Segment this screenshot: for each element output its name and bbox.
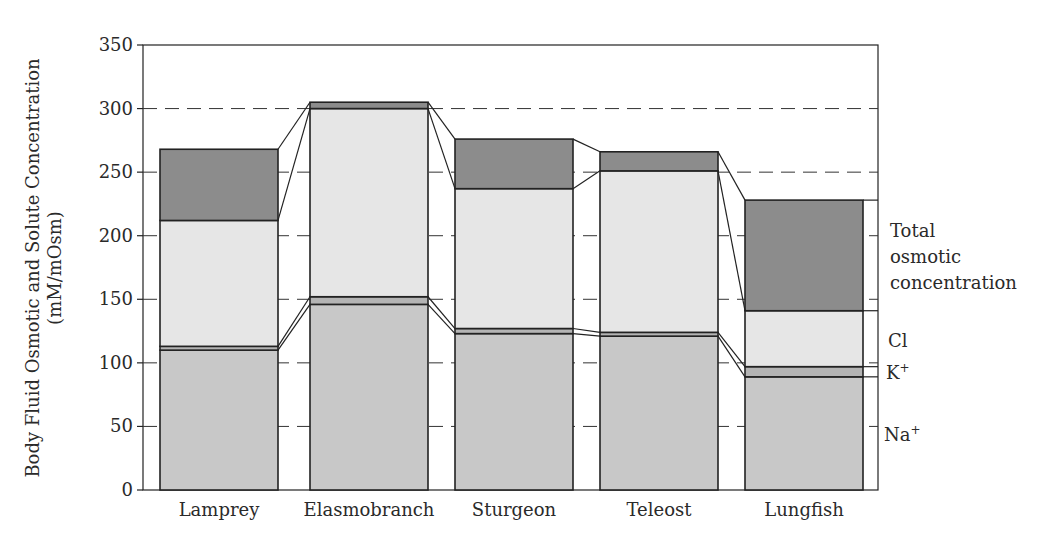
bar-segment-cl (455, 189, 573, 329)
legend-na: Na+ (884, 424, 921, 446)
y-axis-title: Body Fluid Osmotic and Solute Concentrat… (14, 45, 74, 490)
x-category-label: Elasmobranch (304, 499, 435, 520)
bar-segment-total (600, 152, 718, 171)
bar-segment-k (310, 297, 428, 305)
y-tick-label: 300 (99, 98, 133, 119)
y-tick-label: 200 (99, 225, 133, 246)
bar-segment-total (310, 102, 428, 108)
connector-line (278, 304, 310, 350)
bar-segment-cl (310, 109, 428, 297)
legend-total-line2: osmotic (890, 246, 961, 268)
y-axis-title-units: (mM/mOsm) (44, 58, 66, 477)
connector-line (428, 297, 455, 329)
connector-line (718, 332, 745, 366)
bar-segment-total (160, 149, 278, 220)
y-tick-label: 250 (99, 161, 133, 182)
bar-segment-cl (745, 311, 863, 367)
bar-segment-cl (160, 220, 278, 346)
bar-segment-total (455, 139, 573, 189)
bar-segment-na (310, 304, 428, 490)
legend-total-line1: Total (890, 220, 935, 242)
connector-line (573, 329, 600, 333)
bar-segment-na (455, 334, 573, 490)
legend-k: K+ (886, 362, 910, 384)
connector-line (573, 334, 600, 337)
legend-k-sup: + (899, 361, 909, 375)
connector-line (278, 297, 310, 347)
x-category-label: Sturgeon (472, 499, 557, 520)
legend-total-line3: concentration (890, 272, 1017, 294)
legend-na-sup: + (910, 423, 920, 437)
legend-k-text: K (886, 362, 899, 383)
bar-segment-na (600, 336, 718, 490)
bar-segment-na (745, 377, 863, 490)
bar-segment-k (745, 367, 863, 377)
bar-segment-total (745, 200, 863, 311)
x-category-label: Lungfish (764, 499, 844, 520)
y-tick-label: 100 (99, 352, 133, 373)
legend-cl: Cl (888, 330, 908, 352)
bar-segment-na (160, 350, 278, 490)
y-tick-label: 0 (122, 479, 133, 500)
bar-segment-cl (600, 171, 718, 332)
connector-line (428, 304, 455, 333)
y-tick-label: 350 (99, 34, 133, 55)
y-axis-title-line1: Body Fluid Osmotic and Solute Concentrat… (22, 58, 44, 477)
connector-line (718, 336, 745, 377)
y-tick-label: 150 (99, 288, 133, 309)
x-category-label: Teleost (627, 499, 693, 520)
connector-line (573, 139, 600, 152)
legend-na-text: Na (884, 424, 910, 445)
x-category-label: Lamprey (179, 499, 261, 520)
connector-line (573, 171, 600, 189)
y-tick-label: 50 (110, 415, 133, 436)
